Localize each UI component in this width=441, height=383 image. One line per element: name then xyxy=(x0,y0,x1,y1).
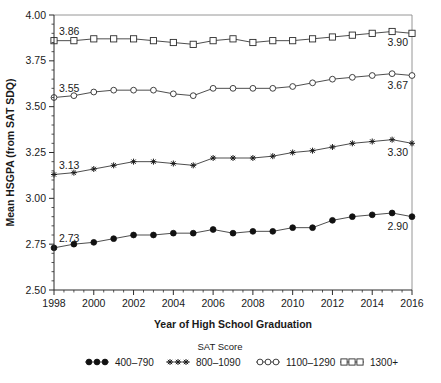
data-point-marker xyxy=(230,85,236,91)
data-point-marker xyxy=(150,159,156,165)
x-tick-label: 2008 xyxy=(241,297,265,309)
data-point-marker xyxy=(409,140,415,146)
data-point-marker xyxy=(330,76,336,82)
data-point-marker xyxy=(349,74,355,80)
data-point-marker xyxy=(131,159,137,165)
data-point-marker xyxy=(389,137,395,143)
data-point-marker xyxy=(151,87,157,93)
data-point-marker xyxy=(250,228,256,234)
start-value-label: 3.13 xyxy=(59,159,80,171)
data-point-marker xyxy=(91,36,97,42)
y-tick-label: 4.00 xyxy=(26,9,47,21)
start-value-label: 3.86 xyxy=(59,25,80,37)
data-point-marker xyxy=(150,38,156,44)
data-point-marker xyxy=(91,166,97,172)
data-point-marker xyxy=(257,359,263,365)
data-point-marker xyxy=(309,36,315,42)
data-point-marker xyxy=(183,359,189,365)
data-point-marker xyxy=(190,230,196,236)
x-tick-label: 2014 xyxy=(361,297,385,309)
data-point-marker xyxy=(170,161,176,167)
y-tick-label: 3.00 xyxy=(26,192,47,204)
x-tick-label: 2006 xyxy=(201,297,225,309)
data-point-marker xyxy=(111,162,117,168)
data-point-marker xyxy=(409,214,415,220)
start-value-label: 3.55 xyxy=(59,82,80,94)
data-point-marker xyxy=(91,89,97,95)
data-point-marker xyxy=(349,32,355,38)
data-point-marker xyxy=(270,38,276,44)
data-point-marker xyxy=(389,71,395,77)
y-axis-title: Mean HSGPA (from SAT SDQ) xyxy=(4,79,16,227)
legend-item-label: 400–790 xyxy=(115,357,154,368)
data-point-marker xyxy=(250,85,256,91)
legend-item-label: 1300+ xyxy=(370,357,398,368)
x-tick-label: 2010 xyxy=(281,297,305,309)
y-tick-label: 3.25 xyxy=(26,146,47,158)
data-point-marker xyxy=(369,139,375,145)
data-point-marker xyxy=(290,84,296,90)
data-point-marker xyxy=(329,144,335,150)
data-point-marker xyxy=(190,162,196,168)
data-point-marker xyxy=(349,214,355,220)
x-axis-title: Year of High School Graduation xyxy=(154,318,312,330)
end-value-label: 3.90 xyxy=(388,36,409,48)
data-point-marker xyxy=(190,41,196,47)
data-point-marker xyxy=(71,38,77,44)
data-point-marker xyxy=(369,212,375,218)
data-point-marker xyxy=(409,30,415,36)
line-chart-svg: 2.732.903.133.303.553.673.863.90 2.502.7… xyxy=(0,0,441,383)
data-point-marker xyxy=(131,87,137,93)
chart-figure: 2.732.903.133.303.553.673.863.90 2.502.7… xyxy=(0,0,441,383)
data-point-marker xyxy=(210,155,216,161)
data-point-marker xyxy=(167,359,173,365)
data-point-marker xyxy=(151,232,157,238)
data-point-marker xyxy=(290,38,296,44)
data-point-marker xyxy=(265,359,271,365)
data-point-marker xyxy=(290,225,296,231)
legend-item-label: 1100–1290 xyxy=(286,357,336,368)
data-point-marker xyxy=(210,227,216,233)
y-tick-label: 2.50 xyxy=(26,284,47,296)
end-value-label: 2.90 xyxy=(388,220,409,232)
legend-title: SAT Score xyxy=(197,341,242,352)
data-point-marker xyxy=(94,359,100,365)
data-point-marker xyxy=(130,36,136,42)
data-point-marker xyxy=(310,148,316,154)
end-value-label: 3.30 xyxy=(388,146,409,158)
x-tick-label: 2002 xyxy=(122,297,146,309)
y-tick-label: 3.50 xyxy=(26,100,47,112)
data-point-marker xyxy=(91,239,97,245)
data-point-marker xyxy=(310,80,316,86)
y-tick-label: 2.75 xyxy=(26,238,47,250)
data-point-marker xyxy=(102,359,108,365)
x-tick-label: 2000 xyxy=(82,297,106,309)
data-point-marker xyxy=(230,36,236,42)
x-tick-label: 1998 xyxy=(42,297,66,309)
data-point-marker xyxy=(250,155,256,161)
data-point-marker xyxy=(330,217,336,223)
data-point-marker xyxy=(71,170,77,176)
x-tick-label: 2004 xyxy=(162,297,186,309)
start-value-label: 2.73 xyxy=(59,232,80,244)
data-point-marker xyxy=(273,359,279,365)
data-point-marker xyxy=(170,91,176,97)
data-point-marker xyxy=(111,87,117,93)
data-point-marker xyxy=(175,359,181,365)
data-point-marker xyxy=(210,38,216,44)
data-point-marker xyxy=(389,210,395,216)
data-point-marker xyxy=(230,155,236,161)
data-point-marker xyxy=(349,140,355,146)
data-point-marker xyxy=(270,85,276,91)
data-point-marker xyxy=(369,30,375,36)
data-point-marker xyxy=(357,359,363,365)
data-point-marker xyxy=(329,34,335,40)
data-point-marker xyxy=(389,28,395,34)
legend-item-label: 800–1090 xyxy=(196,357,241,368)
data-point-marker xyxy=(170,39,176,45)
data-point-marker xyxy=(111,36,117,42)
data-point-marker xyxy=(111,236,117,242)
end-value-label: 3.67 xyxy=(388,79,409,91)
data-point-marker xyxy=(341,359,347,365)
data-point-marker xyxy=(270,153,276,159)
